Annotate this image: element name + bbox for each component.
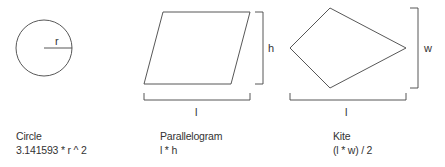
- height-bracket: [255, 12, 263, 84]
- area-formula: (l * w) / 2: [333, 143, 372, 157]
- parallelogram-caption: Parallelogram l * h: [160, 129, 222, 157]
- shape-name: Parallelogram: [160, 129, 222, 143]
- parallelogram-figure: h l: [144, 12, 274, 118]
- area-formula: 3.141593 * r ^ 2: [16, 143, 87, 157]
- width-bracket: [410, 8, 418, 88]
- length-label: l: [345, 106, 347, 118]
- circle-figure: r: [16, 20, 72, 76]
- height-label: h: [268, 42, 274, 54]
- radius-label: r: [55, 35, 59, 47]
- length-bracket: [290, 93, 406, 100]
- shape-name: Circle: [16, 129, 87, 143]
- circle-caption: Circle 3.141593 * r ^ 2: [16, 129, 87, 157]
- width-label: w: [423, 42, 432, 54]
- shapes-diagram: r h l w l: [0, 0, 445, 125]
- parallelogram-shape: [144, 12, 250, 84]
- shape-name: Kite: [333, 129, 372, 143]
- kite-caption: Kite (l * w) / 2: [333, 129, 372, 157]
- length-label: l: [195, 106, 197, 118]
- kite-shape: [290, 8, 406, 88]
- area-formula: l * h: [160, 143, 222, 157]
- kite-figure: w l: [290, 8, 432, 118]
- length-bracket: [144, 93, 250, 100]
